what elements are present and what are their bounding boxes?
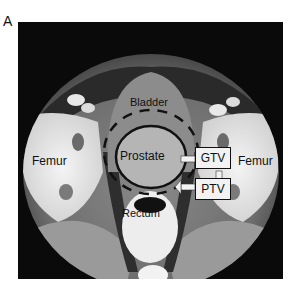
prostate-label: Prostate bbox=[120, 149, 165, 163]
femur-left-label: Femur bbox=[32, 154, 67, 168]
bladder-label: Bladder bbox=[130, 96, 168, 108]
ct-scan-image: Bladder Prostate Rectum Femur Femur GTV … bbox=[18, 22, 283, 279]
femur-right-label: Femur bbox=[238, 154, 273, 168]
ptv-legend-box: PTV bbox=[195, 178, 231, 200]
rectum-label: Rectum bbox=[122, 207, 160, 219]
panel-label: A bbox=[3, 13, 12, 29]
gtv-legend-box: GTV bbox=[195, 147, 231, 169]
